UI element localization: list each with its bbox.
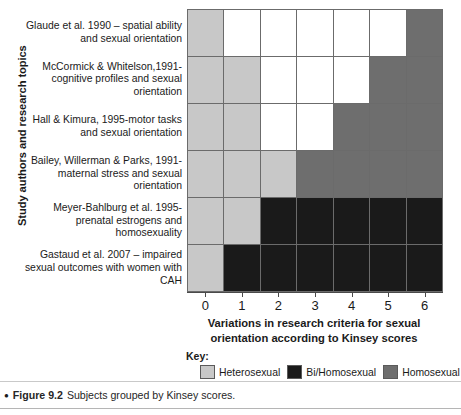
x-axis-title: Variations in research criteria for sexu… xyxy=(178,316,450,345)
x-axis-tick-label: 4 xyxy=(341,298,363,313)
row-label-column: Glaude et al. 1990 – spatial ability and… xyxy=(18,9,185,292)
heatmap-cell xyxy=(188,151,224,198)
row-label: Hall & Kimura, 1995-motor tasks and sexu… xyxy=(18,114,182,139)
figure-caption: ● Figure 9.2 Subjects grouped by Kinsey … xyxy=(4,389,454,401)
heatmap-cell xyxy=(297,10,333,57)
heatmap-cell xyxy=(334,57,370,104)
x-axis-title-line-2: orientation according to Kinsey scores xyxy=(178,331,450,346)
heatmap-cell xyxy=(224,198,260,245)
heatmap-cell xyxy=(334,151,370,198)
x-axis-tick-mark xyxy=(352,292,353,297)
row-label: McCormick & Whitelson,1991-cognitive pro… xyxy=(18,61,182,99)
legend-items: HeterosexualBi/HomosexualHomosexual xyxy=(186,365,461,379)
heatmap-cell xyxy=(261,104,297,151)
heatmap-cell xyxy=(261,10,297,57)
x-axis-tick-mark xyxy=(205,292,206,297)
heatmap-cell xyxy=(407,10,443,57)
legend-item: Heterosexual xyxy=(200,365,280,379)
heatmap-cell xyxy=(334,245,370,292)
heatmap-cell xyxy=(188,10,224,57)
heatmap-cell xyxy=(297,104,333,151)
legend-title: Key: xyxy=(186,350,461,362)
x-axis-tick-mark xyxy=(315,292,316,297)
heatmap-cell xyxy=(224,151,260,198)
heatmap-cell xyxy=(297,198,333,245)
legend: Key: HeterosexualBi/HomosexualHomosexual xyxy=(186,350,461,379)
heatmap-cell xyxy=(261,198,297,245)
heatmap-cell xyxy=(407,245,443,292)
heatmap-cell xyxy=(224,57,260,104)
heatmap-cell xyxy=(297,151,333,198)
legend-swatch xyxy=(383,365,398,379)
heatmap-cell xyxy=(188,198,224,245)
heatmap-cell xyxy=(297,245,333,292)
heatmap-cell xyxy=(407,104,443,151)
legend-swatch xyxy=(200,365,215,379)
caption-divider-top xyxy=(0,381,461,382)
row-label: Glaude et al. 1990 – spatial ability and… xyxy=(18,20,182,45)
heatmap-cell xyxy=(224,10,260,57)
x-axis-tick-label: 3 xyxy=(304,298,326,313)
legend-label: Homosexual xyxy=(402,367,460,378)
heatmap-cell xyxy=(297,57,333,104)
legend-item: Homosexual xyxy=(383,365,460,379)
legend-swatch xyxy=(287,365,302,379)
row-label: Gastaud et al. 2007 – impaired sexual ou… xyxy=(18,249,182,287)
heatmap-cell xyxy=(334,10,370,57)
legend-label: Heterosexual xyxy=(219,367,280,378)
heatmap-cell xyxy=(370,57,406,104)
x-axis-tick-mark xyxy=(388,292,389,297)
heatmap-cell xyxy=(261,245,297,292)
caption-divider-bottom xyxy=(0,408,461,409)
legend-item: Bi/Homosexual xyxy=(287,365,376,379)
x-axis-tick-label: 6 xyxy=(414,298,436,313)
heatmap-cell xyxy=(370,10,406,57)
legend-label: Bi/Homosexual xyxy=(306,367,376,378)
x-axis-tick-mark xyxy=(242,292,243,297)
heatmap-cell xyxy=(407,57,443,104)
heatmap-cell xyxy=(224,104,260,151)
heatmap-cell xyxy=(188,57,224,104)
x-axis-tick-label: 2 xyxy=(267,298,289,313)
x-axis-tick-mark xyxy=(425,292,426,297)
row-label: Bailey, Willerman & Parks, 1991-maternal… xyxy=(18,155,182,193)
heatmap-cell xyxy=(370,104,406,151)
heatmap-cell xyxy=(370,245,406,292)
heatmap-cell xyxy=(407,151,443,198)
heatmap-cell xyxy=(407,198,443,245)
caption-figure-number: Figure 9.2 xyxy=(13,389,63,401)
heatmap-cell xyxy=(370,198,406,245)
x-axis-tick-label: 1 xyxy=(231,298,253,313)
row-label: Meyer-Bahlburg et al. 1995-prenatal estr… xyxy=(18,202,182,240)
heatmap-cell xyxy=(370,151,406,198)
x-axis-tick-mark xyxy=(278,292,279,297)
x-axis-tick-label: 0 xyxy=(194,298,216,313)
heatmap-cell xyxy=(334,104,370,151)
caption-bullet-icon: ● xyxy=(4,392,9,400)
x-axis-title-line-1: Variations in research criteria for sexu… xyxy=(178,316,450,331)
caption-text: Subjects grouped by Kinsey scores. xyxy=(67,389,235,401)
x-axis-tick-label: 5 xyxy=(377,298,399,313)
heatmap-cell xyxy=(188,245,224,292)
heatmap-cell xyxy=(261,57,297,104)
heatmap-cell xyxy=(188,104,224,151)
figure-container: Study authors and research topics Glaude… xyxy=(0,0,461,415)
heatmap-cell xyxy=(334,198,370,245)
heatmap-grid xyxy=(187,9,443,292)
heatmap-cell xyxy=(224,245,260,292)
heatmap-cell xyxy=(261,151,297,198)
